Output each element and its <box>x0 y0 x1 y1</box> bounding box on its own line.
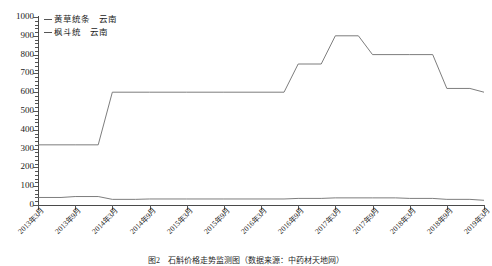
x-tick-label: 2013年9月 <box>47 207 82 242</box>
y-tick-label: 200 <box>0 162 34 171</box>
y-tick-label: 100 <box>0 181 34 190</box>
x-axis-labels: 2013年3月2013年9月2014年3月2014年9月2015年3月2015年… <box>0 207 492 257</box>
series-svg <box>38 17 484 205</box>
y-tick-label: 400 <box>0 125 34 134</box>
x-tick-label: 2015年9月 <box>196 207 231 242</box>
legend-label-0: 黄草统条 <box>54 13 90 26</box>
x-tick-label: 2017年3月 <box>308 207 343 242</box>
legend-label-1: 枫斗统 <box>54 26 81 39</box>
x-tick-label: 2016年3月 <box>233 207 268 242</box>
chart-legend: 黄草统条 云南 枫斗统 云南 <box>44 13 117 39</box>
y-tick-label: 600 <box>0 87 34 96</box>
legend-item-huangcaotongtiao: 黄草统条 云南 <box>44 13 117 26</box>
y-tick-label: 300 <box>0 144 34 153</box>
y-tick-label: 800 <box>0 50 34 59</box>
chart-figure: 01002003004005006007008009001000 2013年3月… <box>0 0 492 266</box>
legend-line-swatch-1 <box>44 32 52 33</box>
series-line-0 <box>38 36 484 145</box>
y-tick-label: 700 <box>0 68 34 77</box>
x-tick-label: 2014年3月 <box>85 207 120 242</box>
legend-item-fengdoutong: 枫斗统 云南 <box>44 26 117 39</box>
x-tick-label: 2018年9月 <box>419 207 454 242</box>
series-line-1 <box>38 197 484 201</box>
y-tick-label: 1000 <box>0 12 34 21</box>
x-tick-label: 2017年9月 <box>345 207 380 242</box>
x-tick-label: 2013年3月 <box>10 207 45 242</box>
figure-caption: 图2 石斛价格走势监测图（数据来源：中药材天地网） <box>0 256 492 266</box>
x-tick-label: 2016年9月 <box>270 207 305 242</box>
legend-line-swatch-0 <box>44 19 52 20</box>
y-tick-label: 900 <box>0 31 34 40</box>
plot-area <box>38 17 484 205</box>
legend-region-0: 云南 <box>99 13 117 26</box>
x-tick-label: 2015年3月 <box>159 207 194 242</box>
x-tick-label: 2019年3月 <box>456 207 491 242</box>
x-tick-label: 2014年9月 <box>122 207 157 242</box>
legend-region-1: 云南 <box>90 26 108 39</box>
y-tick-label: 500 <box>0 106 34 115</box>
x-tick-label: 2018年3月 <box>382 207 417 242</box>
